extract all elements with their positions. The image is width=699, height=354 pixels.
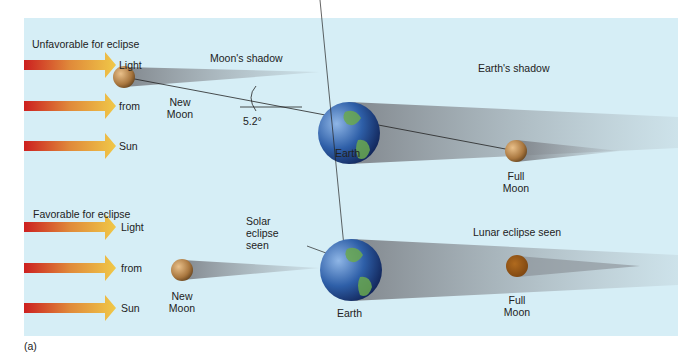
eclipse-diagram — [0, 0, 699, 354]
arrow-label: from — [119, 100, 140, 112]
sun-arrows-bottom — [24, 214, 116, 321]
earth-shadow-label: Earth's shadow — [478, 62, 549, 74]
arrow-label: from — [121, 262, 142, 274]
panel-label: (a) — [24, 340, 37, 352]
arrow-label: Light — [121, 221, 144, 233]
angle-label: 5.2° — [243, 115, 262, 127]
sun-arrows-top — [24, 52, 116, 159]
bottom-heading: Favorable for eclipse — [33, 208, 130, 220]
lunar-eclipse-label: Lunar eclipse seen — [473, 226, 561, 238]
full-moon-top — [505, 140, 527, 162]
solar-eclipse-label: Solareclipseseen — [246, 215, 279, 251]
moon-shadow-top — [124, 67, 320, 87]
new-moon-label-bottom: NewMoon — [167, 290, 197, 314]
eclipsed-full-moon — [506, 255, 528, 277]
new-moon-label: NewMoon — [165, 96, 195, 120]
arrow-label: Sun — [119, 140, 138, 152]
arrow-label: Light — [119, 59, 142, 71]
top-heading: Unfavorable for eclipse — [32, 38, 139, 50]
full-moon-label-bottom: FullMoon — [501, 294, 533, 318]
earth-label-bottom: Earth — [337, 307, 362, 319]
arrow-label: Sun — [121, 302, 140, 314]
full-moon-label: FullMoon — [500, 170, 532, 194]
moon-shadow-label: Moon's shadow — [210, 52, 283, 64]
moon-shadow-bottom — [182, 260, 320, 280]
earth-label: Earth — [335, 147, 360, 159]
new-moon-bottom — [171, 259, 193, 281]
